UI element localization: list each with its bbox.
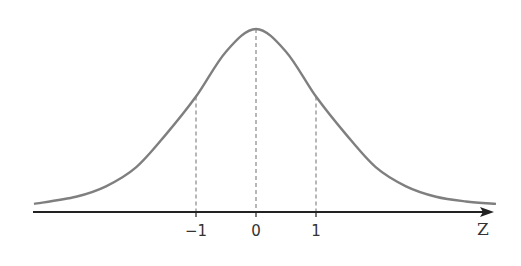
tick-label-one: 1 bbox=[311, 222, 321, 240]
tick-label-minus-one: −1 bbox=[185, 222, 207, 240]
density-curve bbox=[34, 29, 496, 204]
normal-curve-chart: −1 0 1 Z bbox=[0, 0, 521, 266]
reference-lines bbox=[196, 29, 316, 212]
z-axis-label: Z bbox=[477, 219, 489, 239]
tick-label-zero: 0 bbox=[251, 222, 261, 240]
